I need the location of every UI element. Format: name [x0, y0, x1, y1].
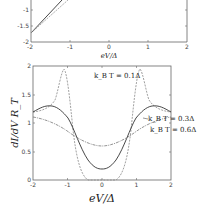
top-curve-solid: [31, 0, 62, 33]
bottom-ytick-label: 1: [27, 119, 31, 126]
top-ytick-label: -2: [23, 38, 29, 45]
top-xtick-label: -1: [67, 43, 73, 50]
curve-kT-0.1: [33, 69, 171, 180]
bottom-xtick-label: 2: [169, 181, 173, 188]
bottom-xtick-label: 1: [135, 181, 139, 188]
bottom-plot-frame: [33, 66, 171, 180]
bottom-ytick-label: 0.5: [21, 148, 31, 155]
label-kT-0.1: k_B T = 0.1Δ: [94, 72, 140, 80]
top-xtick-label: 2: [185, 43, 189, 50]
top-plot-frame: [31, 0, 187, 42]
top-curve-dashed: [31, 0, 68, 33]
top-xtick-label: 1: [146, 43, 150, 50]
bottom-ytick-label: 0: [27, 176, 31, 183]
top-plot: -2 -1 0 1 2 -2 -1.5 -1 eV/Δ: [17, 0, 189, 60]
chart-canvas: -2 -1 0 1 2 -2 -1.5 -1 eV/Δ -2 -: [0, 0, 203, 207]
top-ytick-label: -1: [23, 6, 29, 13]
label-kT-0.3: k_B T = 0.3Δ: [148, 115, 194, 123]
bottom-plot: -2 -1 0 1 2 0 0.5 1 1.5 2 eV/Δ dI/dV R_T…: [9, 62, 196, 205]
top-x-ticks: [31, 10, 187, 42]
bottom-ytick-label: 1.5: [21, 91, 31, 98]
bottom-xtick-label: 0: [100, 181, 104, 188]
label-kT-0.6: k_B T = 0.6Δ: [150, 126, 196, 134]
bottom-xtick-label: -1: [65, 181, 71, 188]
bottom-ytick-label: 2: [27, 62, 31, 69]
top-ytick-label: -1.5: [17, 22, 29, 29]
bottom-y-axis-label: dI/dV R_T: [9, 97, 21, 148]
top-x-axis-label: eV/Δ: [101, 52, 118, 60]
bottom-x-axis-label: eV/Δ: [89, 192, 115, 205]
top-xtick-label: 0: [107, 43, 111, 50]
bottom-ticks: [33, 66, 171, 180]
